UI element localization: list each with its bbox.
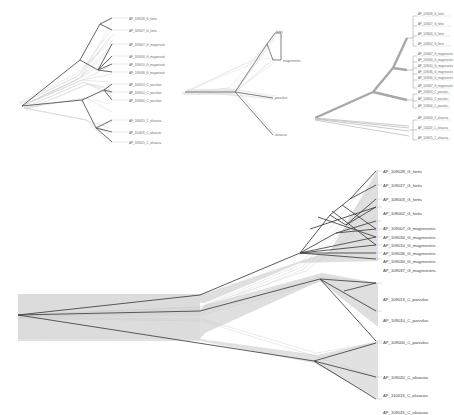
panel-b-cloud — [181, 33, 277, 137]
tip-label: AP_109037_G_magnirostris — [418, 84, 454, 88]
tip-label: AP_109030_G_magnirostris — [418, 76, 454, 80]
tip-label: fortis — [276, 30, 283, 34]
tip-label: AP_109013_C_parvulus — [418, 90, 449, 94]
tip-label: AP_109000_C_parvulus — [129, 99, 162, 103]
panel-c-clade-brackets — [407, 16, 417, 140]
panel-c-tip-labels: AP_109028_G_fortis AP_109027_G_fortis AP… — [418, 12, 454, 140]
panel-main-densitree-bottom: AP_109028_G_fortis AP_109027_G_fortis AP… — [0, 155, 454, 415]
panel-c-branches — [315, 38, 407, 118]
panel-b-tip-labels: fortis magnirostris parvulus olivacea — [275, 30, 301, 137]
tip-label: AP_109013_C_parvulus — [383, 297, 428, 302]
tip-label: AP_109015_C_olivacea — [129, 141, 162, 145]
tip-label: AP_109027_G_fortis — [383, 183, 422, 188]
tip-label: AP_110423_C_olivacea — [383, 393, 428, 398]
panel-consensus-tree-right: AP_109028_G_fortis AP_109027_G_fortis AP… — [315, 0, 454, 155]
tip-label: AP_110423_C_olivacea — [129, 131, 161, 135]
tip-label: magnirostris — [283, 59, 301, 63]
tip-label: AP_109027_G_fortis — [129, 29, 157, 33]
panel-a-svg: AP_109028_G_fortis AP_109027_G_fortis AP… — [0, 0, 165, 155]
tip-label: AP_109034_G_magnirostris — [418, 58, 454, 62]
panel-b-backbone — [185, 33, 281, 135]
tip-label: AP_109010_C_parvulus — [418, 97, 449, 101]
panel-c-svg: AP_109028_G_fortis AP_109027_G_fortis AP… — [315, 0, 454, 155]
tip-label: AP_110423_C_olivacea — [418, 126, 448, 130]
tip-label: AP_109007_G_magnirostris — [418, 52, 454, 56]
panel-d-tip-labels: AP_109028_G_fortis AP_109027_G_fortis AP… — [383, 169, 436, 415]
panel-gene-tree-cloud-left: AP_109028_G_fortis AP_109027_G_fortis AP… — [0, 0, 165, 155]
tip-label: AP_109007_G_magnirostris — [129, 43, 165, 47]
tip-label: AP_109015_C_olivacea — [383, 410, 429, 415]
panel-a-tip-leaders — [112, 18, 128, 142]
tip-label: parvulus — [275, 96, 287, 100]
tip-label: AP_109020_C_olivacea — [418, 116, 448, 120]
tip-label: AP_109007_G_magnirostris — [383, 226, 436, 231]
tip-label: AP_109020_C_olivacea — [129, 119, 162, 123]
tip-label: AP_108002_G_fortis — [418, 42, 445, 46]
tip-label: AP_109036_G_magnirostris — [129, 71, 165, 75]
tip-label: AP_109000_C_parvulus — [383, 340, 428, 345]
panel-c-fanlines — [315, 118, 409, 136]
tip-label: AP_109020_C_olivacea — [383, 375, 429, 380]
tip-label: AP_109010_C_parvulus — [383, 318, 428, 323]
tip-label: AP_109037_G_magnirostris — [383, 268, 436, 273]
tip-label: AP_109027_G_fortis — [418, 22, 445, 26]
tip-label: AP_109015_C_olivacea — [418, 136, 448, 140]
tip-label: AP_109030_G_magnirostris — [383, 259, 436, 264]
tip-label: AP_109028_G_fortis — [129, 17, 157, 21]
tip-label: AP_109000_C_parvulus — [418, 104, 449, 108]
panel-b-svg: fortis magnirostris parvulus olivacea — [163, 0, 318, 155]
tip-label: olivacea — [275, 133, 287, 137]
panel-a-backbone — [22, 18, 112, 142]
panel-d-svg: AP_109028_G_fortis AP_109027_G_fortis AP… — [0, 155, 454, 415]
tip-label: AP_109010_G_magnirostris — [383, 243, 436, 248]
tip-label: AP_109028_G_fortis — [418, 12, 445, 16]
tip-label: AP_109010_G_magnirostris — [129, 63, 165, 67]
figure-container: AP_109028_G_fortis AP_109027_G_fortis AP… — [0, 0, 454, 415]
tip-label: AP_109034_G_magnirostris — [129, 55, 165, 59]
panel-a-tip-labels: AP_109028_G_fortis AP_109027_G_fortis AP… — [129, 17, 165, 145]
tip-label: AP_109010_C_parvulus — [129, 91, 162, 95]
panel-species-tree-cloud-middle: fortis magnirostris parvulus olivacea — [163, 0, 318, 155]
tip-label: AP_109036_G_magnirostris — [418, 70, 454, 74]
tip-label: AP_108002_G_fortis — [383, 211, 422, 216]
tip-label: AP_109010_G_magnirostris — [418, 64, 454, 68]
tip-label: AP_108003_G_fortis — [418, 32, 445, 36]
tip-label: AP_109036_G_magnirostris — [383, 251, 436, 256]
tip-label: AP_108003_G_fortis — [383, 197, 422, 202]
tip-label: AP_109028_G_fortis — [383, 169, 422, 174]
tip-label: AP_109013_C_parvulus — [129, 83, 162, 87]
tip-label: AP_109034_G_magnirostris — [383, 235, 436, 240]
